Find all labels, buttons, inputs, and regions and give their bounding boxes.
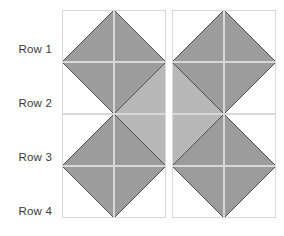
cell-r2c1-shapes (63, 63, 113, 113)
cell-r1c2-shapes (115, 11, 165, 61)
cell-r1c1 (62, 10, 114, 62)
row-label-4: Row 4 (0, 206, 52, 218)
quilt-grid (62, 10, 272, 226)
cell-r2c2-shapes (115, 63, 165, 113)
cell-r4c1 (62, 166, 114, 218)
cell-r4c4-shapes (225, 167, 275, 217)
cell-r3c1-shapes (63, 115, 113, 165)
cell-r4c4 (224, 166, 276, 218)
cell-r4c3-shapes (173, 167, 223, 217)
cell-r4c2 (114, 166, 166, 218)
cell-r1c1-shapes (63, 11, 113, 61)
cell-r3c1 (62, 114, 114, 166)
cell-r3c3 (172, 114, 224, 166)
cell-r2c1 (62, 62, 114, 114)
cell-r3c3-shapes (173, 115, 223, 165)
row-label-3: Row 3 (0, 152, 52, 164)
row-label-2: Row 2 (0, 98, 52, 110)
cell-r2c2 (114, 62, 166, 114)
cell-r2c3-shapes (173, 63, 223, 113)
cell-r2c4 (224, 62, 276, 114)
cell-r2c4-shapes (225, 63, 275, 113)
cell-r1c4-shapes (225, 11, 275, 61)
row-label-column: Row 1 Row 2 Row 3 Row 4 (0, 10, 56, 226)
cell-r3c2 (114, 114, 166, 166)
cell-r1c3-shapes (173, 11, 223, 61)
cell-r4c3 (172, 166, 224, 218)
cell-r1c4 (224, 10, 276, 62)
cell-r1c3 (172, 10, 224, 62)
cell-r2c3 (172, 62, 224, 114)
cell-r3c2-shapes (115, 115, 165, 165)
cell-r1c2 (114, 10, 166, 62)
cell-r4c1-shapes (63, 167, 113, 217)
triangle-grid-figure: Row 1 Row 2 Row 3 Row 4 (0, 0, 284, 236)
cell-r3c4-shapes (225, 115, 275, 165)
row-label-1: Row 1 (0, 44, 52, 56)
cell-r3c4 (224, 114, 276, 166)
cell-r4c2-shapes (115, 167, 165, 217)
